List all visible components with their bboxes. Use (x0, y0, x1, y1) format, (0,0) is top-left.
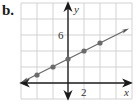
x-axis (21, 80, 131, 86)
coordinate-plane: 6 2 y x (0, 0, 138, 107)
x-tick-label: 2 (81, 86, 87, 98)
data-point (81, 48, 86, 53)
data-point (50, 64, 55, 69)
data-point (65, 56, 70, 61)
data-point (97, 40, 102, 45)
y-tick-label: 6 (58, 29, 64, 41)
data-point (34, 72, 39, 77)
grid (21, 3, 132, 99)
x-axis-label: x (123, 86, 129, 98)
y-axis-label: y (73, 3, 79, 15)
